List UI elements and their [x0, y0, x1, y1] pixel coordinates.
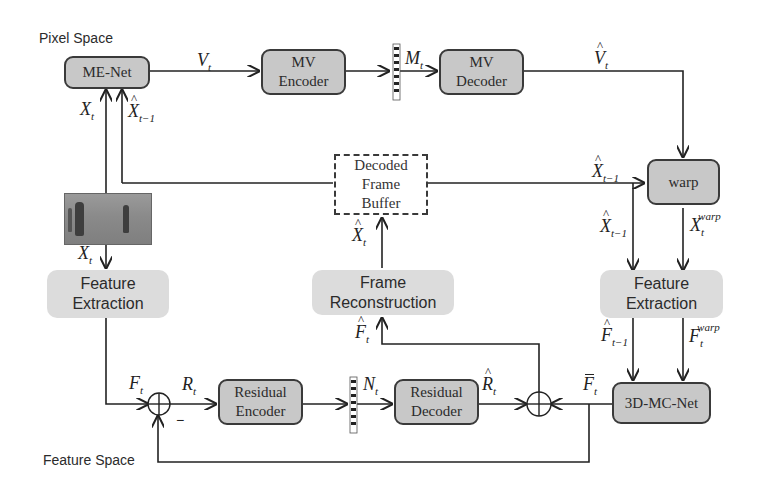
fe-left-label-1: Feature [80, 274, 135, 294]
label-Xhat-t-1-up: Xt−1 [128, 101, 155, 124]
mv-encoder-label-1: MV [291, 53, 315, 72]
label-Mt: Mt [405, 48, 423, 71]
label-Fhat-t-1: Ft−1 [601, 325, 628, 348]
mv-encoder-block: MV Encoder [261, 49, 346, 95]
label-Rt: Rt [182, 374, 196, 397]
person-figure-icon [123, 205, 129, 233]
mv-decoder-label-2: Decoder [456, 72, 507, 91]
me-net-label: ME-Net [82, 63, 131, 82]
label-Ft-warp: Ftwarp [689, 325, 726, 349]
warp-block: warp [647, 159, 720, 205]
label-Nt: Nt [363, 374, 378, 397]
warp-label: warp [669, 173, 699, 192]
res-dec-label-1: Residual [410, 383, 463, 402]
label-Xhat-t: Xt [352, 225, 366, 248]
feature-extraction-right: Feature Extraction [600, 270, 723, 318]
label-Vt: Vt [197, 50, 211, 73]
frame-reconstruction: Frame Reconstruction [312, 270, 454, 315]
frame-recon-label-1: Frame [360, 273, 406, 293]
sum-node-add [527, 392, 551, 416]
residual-decoder-block: Residual Decoder [394, 379, 479, 425]
me-net-block: ME-Net [64, 56, 150, 89]
mv-decoder-label-1: MV [469, 53, 493, 72]
feature-space-label: Feature Space [43, 452, 135, 468]
3d-mc-net-block: 3D-MC-Net [612, 382, 711, 424]
label-Vhat-t: Vt [594, 48, 608, 71]
minus-sign: − [176, 412, 184, 428]
label-Xhat-t-1-down: Xt−1 [600, 216, 627, 239]
decoded-frame-buffer: Decoded Frame Buffer [334, 154, 428, 215]
dfb-label-2: Frame [362, 175, 400, 194]
mc-net-label: 3D-MC-Net [625, 394, 698, 413]
label-Fhat-t: Ft [355, 322, 369, 345]
sum-node-subtract [148, 393, 170, 415]
feature-extraction-left: Feature Extraction [47, 270, 169, 318]
residual-encoder-block: Residual Encoder [218, 379, 303, 425]
label-Fbar-t: Ft [583, 374, 597, 397]
input-frame-image [64, 193, 152, 245]
mv-encoder-label-2: Encoder [279, 72, 329, 91]
person-figure-icon [68, 208, 72, 232]
res-enc-label-1: Residual [234, 383, 287, 402]
label-Xt-down: Xt [78, 243, 92, 266]
bitstream-residual-icon [350, 377, 357, 433]
person-figure-icon [75, 202, 84, 236]
pixel-space-label: Pixel Space [39, 30, 113, 46]
label-Xt-up: Xt [80, 99, 94, 122]
res-enc-label-2: Encoder [236, 402, 286, 421]
fe-left-label-2: Extraction [72, 294, 143, 314]
res-dec-label-2: Decoder [411, 402, 462, 421]
dfb-label-3: Buffer [362, 194, 401, 213]
fe-right-label-1: Feature [634, 274, 689, 294]
label-Xhat-t-1-warp: Xt−1 [592, 161, 619, 184]
label-Ft: Ft [129, 373, 143, 396]
fe-right-label-2: Extraction [626, 294, 697, 314]
dfb-label-1: Decoded [354, 156, 407, 175]
mv-decoder-block: MV Decoder [439, 49, 524, 95]
label-Xt-warp: Xtwarp [690, 214, 727, 238]
frame-recon-label-2: Reconstruction [330, 293, 437, 313]
label-Rhat-t: Rt [482, 374, 496, 397]
bitstream-mv-icon [393, 44, 400, 100]
